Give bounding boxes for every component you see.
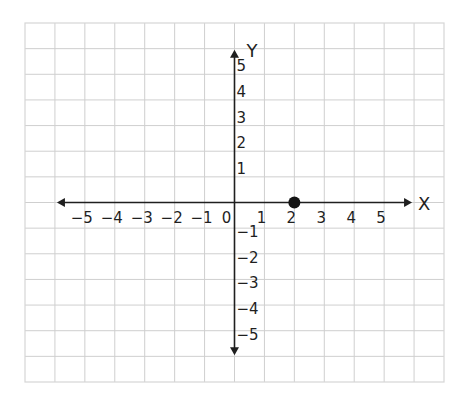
coordinate-plane: −5−4−3−2−101234554321−1−2−3−4−5 X Y — [0, 0, 467, 401]
x-tick-label: −4 — [101, 209, 123, 227]
y-axis-title: Y — [246, 40, 259, 61]
x-tick-label: −3 — [131, 209, 153, 227]
x-tick-label: −1 — [191, 209, 213, 227]
y-tick-label: −4 — [237, 300, 259, 318]
x-tick-label: 2 — [287, 209, 297, 227]
x-tick-label: 4 — [346, 209, 356, 227]
axes — [57, 50, 412, 356]
y-tick-label: −2 — [237, 249, 259, 267]
y-tick-label: 4 — [237, 83, 247, 101]
x-axis-arrow-left — [57, 198, 65, 207]
y-tick-label: −5 — [237, 326, 259, 344]
y-tick-label: −1 — [237, 223, 259, 241]
x-tick-label: −2 — [161, 209, 183, 227]
y-tick-label: −3 — [237, 274, 259, 292]
y-tick-label: 3 — [237, 109, 247, 127]
y-tick-label: 5 — [237, 57, 247, 75]
x-axis-arrow-right — [404, 198, 412, 207]
x-tick-label: 3 — [317, 209, 327, 227]
y-tick-label: 2 — [237, 134, 247, 152]
y-axis-arrow-down — [230, 347, 239, 355]
x-axis-title: X — [418, 193, 430, 214]
x-tick-label: 0 — [222, 209, 232, 227]
data-point — [288, 197, 300, 209]
x-tick-label: −5 — [71, 209, 93, 227]
y-tick-label: 1 — [237, 160, 247, 178]
data-points — [288, 197, 300, 209]
x-tick-label: 5 — [376, 209, 386, 227]
